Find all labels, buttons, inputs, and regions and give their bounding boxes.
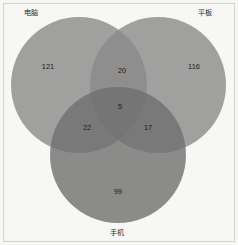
region-value-right-only: 116	[188, 63, 200, 70]
region-value-left-only: 121	[42, 63, 54, 70]
region-value-bottom-only: 99	[114, 188, 122, 195]
region-value-all-three: 5	[118, 103, 122, 110]
set-label-bottom: 手机	[110, 229, 124, 236]
venn-diagram-page: 电脑 平板 手机 121 116 99 20 22 17 5	[0, 0, 238, 245]
set-label-right: 平板	[198, 9, 212, 16]
region-value-left-right: 20	[118, 67, 126, 74]
region-value-right-bottom: 17	[144, 124, 152, 131]
venn-diagram-canvas	[0, 0, 238, 245]
set-label-left: 电脑	[24, 9, 38, 16]
region-value-left-bottom: 22	[83, 124, 91, 131]
